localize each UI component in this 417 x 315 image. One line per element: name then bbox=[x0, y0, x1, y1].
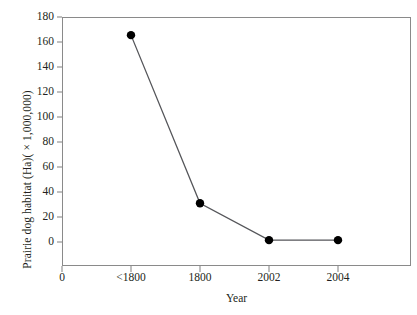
x-axis-title: Year bbox=[62, 292, 411, 304]
x-axis-tick-labels: 0<1800180020022004 bbox=[0, 0, 417, 315]
x-tick-label: <1800 bbox=[91, 272, 171, 284]
chart-figure: Prairie dog habitat (Ha)( × 1,000,000) 0… bbox=[0, 0, 417, 315]
x-tick-label: 2004 bbox=[298, 272, 378, 284]
x-tick-label: 1800 bbox=[160, 272, 240, 284]
x-tick-label: 2002 bbox=[229, 272, 309, 284]
x-tick-label: 0 bbox=[22, 272, 102, 284]
